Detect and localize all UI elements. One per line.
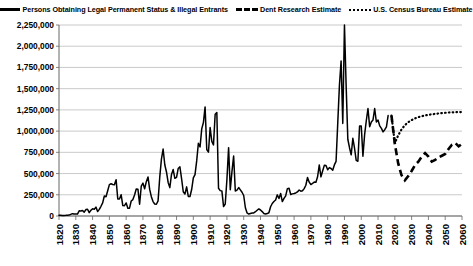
x-tick-label: 1930 [238,224,249,245]
x-tick-label: 1980 [322,224,333,245]
data-series-group [59,25,462,215]
y-tick-label: 1,000,000 [17,126,55,136]
dotted-line-icon [349,9,371,11]
legend-item-dent: Dent Research Estimate [236,6,341,13]
y-tick-label: 250,000 [24,190,55,200]
gridlines [59,25,462,216]
legend-label-census: U.S. Census Bureau Estimate [373,6,472,13]
x-tick-label: 2060 [457,224,468,245]
legend-item-main: Persons Obtaining Legal Permanent Status… [0,6,228,13]
plot-area-wrapper: 0250,000500,000750,0001,000,0001,250,000… [0,16,471,266]
x-tick-label: 1970 [305,224,316,245]
solid-line-icon [0,8,20,11]
x-tick-label: 1830 [70,224,81,245]
y-tick-label: 750,000 [24,147,55,157]
y-axis-tick-labels: 0250,000500,000750,0001,000,0001,250,000… [17,20,55,221]
y-tick-label: 1,250,000 [17,105,55,115]
series-line-census [391,112,462,143]
x-tick-label: 2030 [406,224,417,245]
series-line-dent [391,116,462,181]
y-tick-label: 1,500,000 [17,84,55,94]
y-tick-label: 2,250,000 [17,20,55,30]
series-line-main [59,25,388,215]
chart-svg: 0250,000500,000750,0001,000,0001,250,000… [0,16,471,266]
y-tick-label: 2,000,000 [17,41,55,51]
legend-item-census: U.S. Census Bureau Estimate [349,6,472,13]
y-tick-label: 500,000 [24,169,55,179]
dashed-line-icon [236,8,258,11]
y-tick-label: 1,750,000 [17,62,55,72]
x-tick-label: 1900 [188,224,199,245]
y-tick-label: 0 [49,211,54,221]
x-axis-tick-labels: 1820183018401850186018701880189019001910… [54,224,468,245]
x-tick-label: 1850 [104,224,115,245]
x-tick-label: 1890 [171,224,182,245]
x-tick-label: 1870 [137,224,148,245]
x-tick-label: 1820 [54,224,65,245]
x-tick-label: 1960 [289,224,300,245]
x-tick-label: 1880 [154,224,165,245]
x-tick-label: 1840 [87,224,98,245]
legend-label-dent: Dent Research Estimate [260,6,341,13]
x-tick-label: 1910 [205,224,216,245]
x-tick-label: 1860 [121,224,132,245]
x-tick-label: 1920 [221,224,232,245]
x-tick-label: 2050 [440,224,451,245]
x-tick-label: 2040 [423,224,434,245]
x-tick-label: 1990 [339,224,350,245]
x-tick-label: 1950 [272,224,283,245]
x-tick-label: 2010 [373,224,384,245]
x-tick-label: 2020 [389,224,400,245]
x-tick-label: 1940 [255,224,266,245]
x-tick-label: 2000 [356,224,367,245]
legend-label-main: Persons Obtaining Legal Permanent Status… [22,6,228,13]
